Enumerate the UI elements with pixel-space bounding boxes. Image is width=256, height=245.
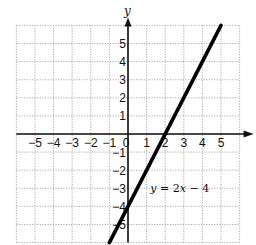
x-tick-label: −5	[28, 136, 42, 150]
x-tick-label: 4	[199, 136, 206, 150]
y-axis-arrow-icon	[125, 17, 132, 26]
x-tick-label: 3	[180, 136, 187, 150]
x-tick-label: 5	[218, 136, 225, 150]
x-axis-arrow-icon	[244, 131, 254, 138]
y-tick-label: −1	[112, 146, 126, 160]
x-tick-label: −2	[84, 136, 98, 150]
y-tick-label: 2	[119, 91, 126, 105]
x-tick-label: 1	[143, 136, 150, 150]
y-tick-label: 1	[119, 109, 126, 123]
y-tick-label: 5	[119, 37, 126, 51]
y-tick-label: −3	[112, 182, 126, 196]
y-axis-label: y	[123, 4, 131, 18]
axes	[16, 17, 253, 242]
equation-label: y = 2x − 4	[149, 182, 209, 195]
x-tick-label: −3	[65, 136, 79, 150]
y-tick-label: 3	[119, 73, 126, 87]
y-tick-label: −2	[112, 164, 126, 178]
coordinate-plane: −5−4−3−2−1012345−5−4−3−2−112345 x y y = …	[0, 0, 256, 245]
y-tick-label: 4	[119, 55, 126, 69]
x-tick-label: −4	[47, 136, 61, 150]
